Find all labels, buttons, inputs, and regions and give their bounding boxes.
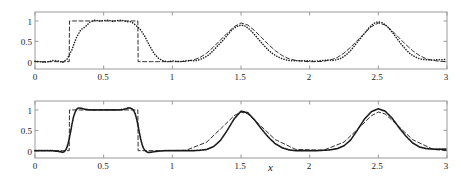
panel-bottom: 1 0.5 0 0 0.5 1 1.5 2 2.5 3 h = 1/120 x	[0, 89, 461, 179]
figure-container: 1 0.5 0 0 0.5 1 1.5 2 2.5 3 h = 1/30 1 0…	[0, 0, 461, 179]
plot-area-bottom	[0, 89, 461, 179]
panel-top: 1 0.5 0 0 0.5 1 1.5 2 2.5 3 h = 1/30	[0, 0, 461, 89]
plot-area-top	[0, 0, 461, 89]
